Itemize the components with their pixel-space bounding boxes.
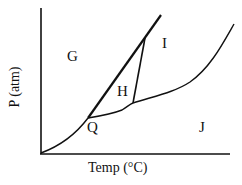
curve-origin-to-q (41, 118, 88, 153)
boundary-g-h-i (88, 15, 161, 118)
region-label-g: G (67, 49, 78, 64)
y-axis-label: P (atm) (8, 64, 22, 110)
region-label-i: I (162, 36, 167, 51)
region-label-h: H (117, 84, 128, 99)
x-axis-label: Temp (°C) (88, 161, 147, 175)
boundary-i-j (133, 24, 234, 103)
region-label-j: J (199, 120, 205, 135)
point-label-q: Q (87, 120, 98, 135)
curve-q-to-junction (88, 103, 133, 118)
